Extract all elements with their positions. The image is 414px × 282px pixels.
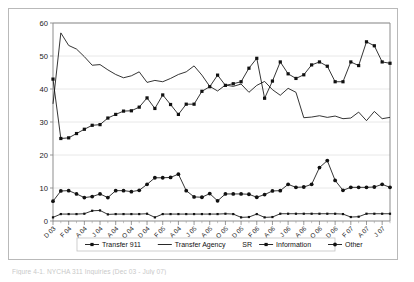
x-tick-label: A 06 [262, 224, 276, 238]
data-point [302, 73, 305, 76]
data-point [310, 63, 313, 66]
data-point [381, 213, 383, 215]
data-point [295, 213, 297, 215]
data-point [52, 216, 54, 218]
data-point [357, 64, 360, 67]
legend-marker-square [265, 243, 268, 246]
data-point [279, 213, 281, 215]
data-point [248, 216, 250, 218]
data-point [358, 216, 360, 218]
x-tick-label: O 05 [214, 224, 229, 239]
x-tick-label: A 04 [74, 224, 88, 238]
data-point [263, 97, 266, 100]
data-point [59, 137, 62, 140]
data-point [145, 182, 149, 186]
data-point [59, 189, 63, 193]
data-point [224, 213, 226, 215]
legend-label: Other [345, 241, 363, 248]
data-point [342, 213, 344, 215]
x-tick-label: F 04 [58, 224, 72, 238]
x-tick-label: J 07 [372, 224, 386, 238]
data-point [200, 195, 204, 199]
data-point [240, 216, 242, 218]
data-point [192, 103, 195, 106]
figure-caption: Figure 4-1. NYCHA 311 Inquiries (Dec 03 … [12, 268, 407, 275]
data-point [169, 213, 171, 215]
data-point [381, 60, 384, 63]
data-point [138, 213, 140, 215]
data-point [224, 192, 228, 196]
data-point [286, 182, 290, 186]
x-tick-label: F 05 [152, 224, 166, 238]
x-tick-label: D 05 [230, 224, 245, 239]
data-point [318, 166, 322, 170]
y-tick-label: 40 [40, 85, 48, 94]
data-point [115, 213, 117, 215]
x-tick-label: O 06 [308, 224, 323, 239]
series-line-information [53, 161, 390, 202]
legend-item-sr[interactable]: SR [242, 241, 252, 248]
x-tick-label: A 07 [356, 224, 370, 238]
data-point [372, 185, 376, 189]
data-point [200, 90, 203, 93]
data-point [122, 213, 124, 215]
data-point [130, 109, 133, 112]
data-point [318, 60, 321, 63]
legend-label: Information [276, 241, 311, 248]
x-tick-label: F 07 [341, 224, 355, 238]
data-point [326, 213, 328, 215]
data-point [161, 93, 164, 96]
data-point [325, 159, 329, 163]
data-point [350, 216, 352, 218]
data-point [255, 57, 258, 60]
data-point [201, 213, 203, 215]
data-point [271, 216, 273, 218]
series-line-transfer-agency [53, 33, 390, 121]
y-tick-label: 50 [40, 52, 48, 61]
legend-label: Transfer 911 [102, 241, 141, 248]
data-point [162, 213, 164, 215]
legend-marker-circle [333, 243, 337, 247]
data-point [287, 72, 290, 75]
data-point [365, 185, 369, 189]
data-point [264, 216, 266, 218]
data-point [51, 199, 55, 203]
data-point [303, 213, 305, 215]
data-point [75, 132, 78, 135]
data-point [209, 213, 211, 215]
data-point [232, 82, 235, 85]
x-tick-label: A 06 [293, 224, 307, 238]
data-point [153, 176, 157, 180]
x-tick-label: J 05 [184, 224, 198, 238]
data-point [256, 213, 258, 215]
data-point [310, 182, 314, 186]
y-tick-label: 20 [40, 151, 48, 160]
data-point [98, 123, 101, 126]
data-point [263, 193, 267, 197]
data-point [365, 213, 367, 215]
data-point [341, 188, 345, 192]
data-point [388, 62, 391, 65]
data-point [349, 60, 352, 63]
data-point [106, 116, 109, 119]
data-point [216, 213, 218, 215]
data-point [341, 80, 344, 83]
x-tick-label: J 06 [278, 224, 292, 238]
data-point [185, 213, 187, 215]
data-point [239, 192, 243, 196]
data-point [154, 216, 156, 218]
data-point [90, 195, 94, 199]
data-point [279, 60, 282, 63]
data-point [99, 209, 101, 211]
data-point [68, 213, 70, 215]
series-line-other [53, 210, 390, 217]
data-point [271, 79, 274, 82]
data-point [208, 192, 212, 196]
chart-plot: 0102030405060D 03F 04A 04J 04A 04O 04D 0… [9, 9, 399, 261]
data-point [193, 213, 195, 215]
data-point [83, 213, 85, 215]
data-point [91, 210, 93, 212]
data-point [373, 213, 375, 215]
data-point [138, 106, 141, 109]
data-point [294, 77, 297, 80]
